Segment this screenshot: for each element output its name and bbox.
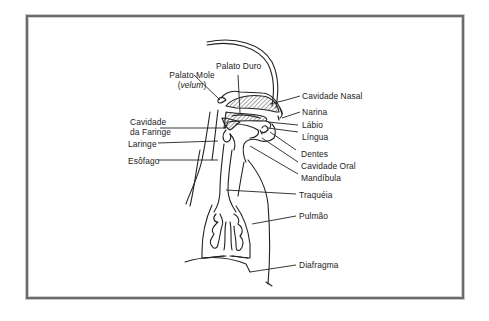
- label-cavidade-oral: Cavidade Oral: [301, 161, 356, 171]
- label-palato-mole-text: Palato Mole: [169, 70, 214, 80]
- label-dentes: Dentes: [301, 149, 328, 159]
- label-laringe: Laringe: [128, 139, 157, 149]
- label-pulmao: Pulmão: [299, 211, 328, 221]
- label-traqueia: Traquéia: [299, 190, 333, 200]
- anatomy-drawing: [0, 0, 489, 321]
- label-palato-mole: Palato Mole (velum): [162, 70, 222, 90]
- label-labio: Lábio: [302, 120, 323, 130]
- label-lingua: Língua: [302, 132, 328, 142]
- label-velum: velum: [181, 80, 204, 90]
- label-palato-duro: Palato Duro: [216, 61, 261, 71]
- label-mandibula: Mandíbula: [301, 173, 341, 183]
- label-narina: Narina: [302, 107, 327, 117]
- diaphragm: [185, 258, 250, 272]
- label-diafragma: Diafragma: [299, 260, 339, 270]
- label-cavidade-nasal: Cavidade Nasal: [302, 91, 363, 101]
- velum-close-paren: ): [203, 80, 206, 90]
- label-cavidade-faringe-line1: Cavidade: [130, 117, 166, 127]
- label-esofago: Esôfago: [128, 156, 159, 166]
- label-cavidade-faringe-line2: da Faringe: [130, 127, 171, 137]
- lungs: [202, 205, 226, 258]
